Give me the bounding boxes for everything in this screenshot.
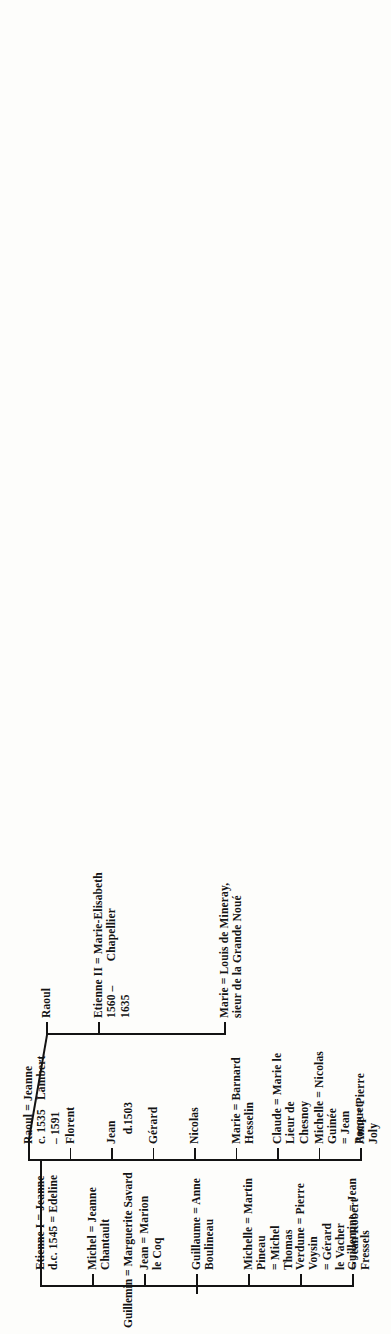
person-line: Jean = Marion <box>138 1196 151 1270</box>
person-line: Jean <box>105 1120 118 1144</box>
person-node: Etienne II = Marie-Elisabeth1560 – Chape… <box>92 872 132 1018</box>
person-line: Guinée <box>326 1051 339 1144</box>
person-line: Guillemine = Jean <box>346 1178 359 1270</box>
generation3-tick <box>98 1022 100 1035</box>
person-line: Pineau <box>255 1178 268 1270</box>
person-node: Jean <box>105 1120 118 1144</box>
person-node: Gérard <box>147 1107 160 1144</box>
person-line: Lieur de <box>284 1053 297 1144</box>
person-line: Marie = Barnard <box>230 1057 243 1144</box>
person-node: Guillemine = JeanFressels <box>346 1178 373 1270</box>
generation1-tick <box>300 1274 302 1287</box>
person-line: Chesnoy <box>298 1053 311 1144</box>
etienne1-to-generation2-connector <box>40 1160 42 1286</box>
title-line-2: d.1503 <box>122 1102 134 1172</box>
person-line: = Jean <box>339 1051 352 1144</box>
person-node: Florent <box>64 1107 77 1144</box>
person-line: Marie = Louis de Mineray, <box>218 883 231 1018</box>
person-node: Raoul = Jeannec. 1535 Lambert– 1591 <box>22 1056 62 1144</box>
generation2-tick <box>360 1148 362 1161</box>
person-line: Guillaume = Anne <box>190 1178 203 1270</box>
generation3-tick <box>224 1022 226 1035</box>
generation1-tick <box>196 1274 198 1287</box>
person-line: c. 1535 Lambert <box>35 1056 48 1144</box>
generation2-tick <box>319 1148 321 1161</box>
person-line: Claude = Marie le <box>271 1053 284 1144</box>
person-node: Etienne I = Jeanned.c. 1545 = Edeline <box>34 1175 61 1270</box>
generation2-tick <box>153 1148 155 1161</box>
person-line: Fressels <box>359 1178 372 1270</box>
generation1-tick <box>92 1274 94 1287</box>
person-node: Guillaume = AnneBoulineau <box>190 1178 217 1270</box>
person-line: le Coq <box>151 1196 164 1270</box>
person-line: Etienne II = Marie-Elisabeth <box>92 872 105 1018</box>
raoul-descent-stub <box>28 1138 30 1160</box>
genealogy-chart: Guillemin = Marguerite Savardd.1503Etien… <box>0 0 391 1334</box>
person-line: Voysin <box>307 1183 320 1270</box>
person-line: Nicolas <box>188 1107 201 1144</box>
person-line: Michelle = Martin <box>242 1178 255 1270</box>
person-line: 1635 <box>119 872 132 1018</box>
person-line: Gérard <box>147 1107 160 1144</box>
person-line: d.c. 1545 = Edeline <box>47 1175 60 1270</box>
person-node: Nicolas <box>188 1107 201 1144</box>
person-line: Florent <box>64 1107 77 1144</box>
generation1-spine-cap-bottom <box>352 1274 354 1287</box>
person-line: 1560 – Chapellier <box>105 872 118 1018</box>
generation2-tick <box>277 1148 279 1161</box>
generation3-spine <box>46 1033 224 1035</box>
person-line: sieur de la Grande Noué <box>231 883 244 1018</box>
person-line: Verdune = Pierre <box>294 1183 307 1270</box>
person-node: Raoul <box>40 988 53 1018</box>
generation2-tick <box>194 1148 196 1161</box>
person-line: Boulineau <box>203 1178 216 1270</box>
person-node: Michelle = MartinPineau= MichelThomas <box>242 1178 296 1270</box>
person-line: Hesselin <box>243 1057 256 1144</box>
person-line: – 1591 <box>49 1056 62 1144</box>
generation3-tick <box>46 1022 48 1035</box>
person-node: Claude = Marie leLieur deChesnoy <box>271 1053 311 1144</box>
generation1-tick <box>248 1274 250 1287</box>
person-node: Marie = BarnardHesselin <box>230 1057 257 1144</box>
person-line: Anne = Pierre <box>354 1073 367 1144</box>
person-node: Anne = PierreJoly <box>354 1073 381 1144</box>
generation1-tick <box>144 1274 146 1287</box>
generation2-tick <box>111 1148 113 1161</box>
generation2-tick <box>236 1148 238 1161</box>
person-line: Joly <box>367 1073 380 1144</box>
generation2-tick <box>70 1148 72 1161</box>
person-line: Raoul <box>40 988 53 1018</box>
title-line-1: Guillemin = Marguerite Savard <box>122 1172 134 1328</box>
person-line: Chantault <box>99 1187 112 1270</box>
person-node: Michel = JeanneChantault <box>86 1187 113 1270</box>
person-node: Jean = Marionle Coq <box>138 1196 165 1270</box>
person-line: = Gérard <box>321 1183 334 1270</box>
person-line: Michelle = Nicolas <box>313 1051 326 1144</box>
person-node: Marie = Louis de Mineray,sieur de la Gra… <box>218 883 245 1018</box>
person-line: = Michel <box>269 1178 282 1270</box>
person-line: Michel = Jeanne <box>86 1187 99 1270</box>
